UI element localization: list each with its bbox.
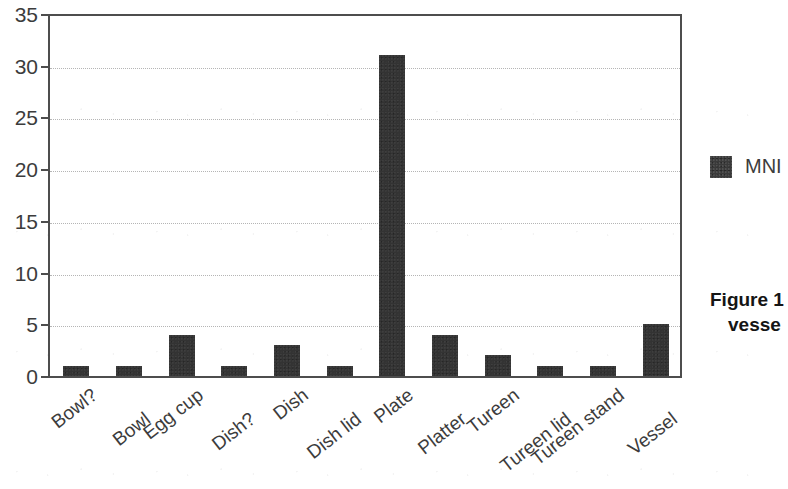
gridline bbox=[50, 275, 680, 276]
plot-frame bbox=[48, 14, 682, 378]
x-axis-category-label: Egg cup bbox=[139, 384, 207, 444]
y-axis-tick-label: 0 bbox=[0, 366, 38, 387]
bar bbox=[432, 335, 458, 376]
bar bbox=[169, 335, 195, 376]
gridline bbox=[50, 68, 680, 69]
y-axis-tick-label: 15 bbox=[0, 211, 38, 232]
bar bbox=[274, 345, 300, 376]
bar bbox=[590, 366, 616, 376]
legend-label-mni: MNI bbox=[745, 155, 782, 178]
x-axis-category-label: Platter bbox=[414, 408, 471, 459]
y-axis-tick-label: 25 bbox=[0, 107, 38, 128]
y-axis-tick-mark bbox=[41, 221, 48, 223]
x-axis-category-label: Plate bbox=[370, 384, 418, 428]
gridline bbox=[50, 119, 680, 120]
y-axis-tick-label: 35 bbox=[0, 4, 38, 25]
y-axis-tick-label: 20 bbox=[0, 159, 38, 180]
bar bbox=[643, 324, 669, 376]
figure-caption-line-2: vesse bbox=[710, 312, 788, 337]
figure-caption: Figure 1 vesse bbox=[710, 287, 788, 338]
bar bbox=[379, 55, 405, 376]
x-axis-category-label: Vessel bbox=[624, 408, 682, 460]
y-axis-tick-mark bbox=[41, 14, 48, 16]
y-axis-tick-label: 5 bbox=[0, 314, 38, 335]
bar bbox=[327, 366, 353, 376]
y-axis-tick-mark bbox=[41, 169, 48, 171]
y-axis-tick-mark bbox=[41, 66, 48, 68]
bar bbox=[221, 366, 247, 376]
y-axis-tick-label: 10 bbox=[0, 263, 38, 284]
bar bbox=[116, 366, 142, 376]
x-axis-category-label: Dish? bbox=[208, 408, 260, 455]
gridline bbox=[50, 223, 680, 224]
x-axis-category-label: Dish lid bbox=[303, 408, 366, 464]
y-axis-tick-mark bbox=[41, 324, 48, 326]
x-axis-category-label: Dish bbox=[269, 384, 313, 425]
bar bbox=[537, 366, 563, 376]
figure-caption-line-1: Figure 1 bbox=[710, 287, 788, 312]
y-axis-tick-mark bbox=[41, 117, 48, 119]
x-axis-category-label: Bowl? bbox=[48, 384, 102, 433]
plot-area bbox=[50, 16, 680, 376]
legend-swatch-mni bbox=[710, 156, 732, 178]
y-axis-tick-label: 30 bbox=[0, 56, 38, 77]
y-axis-tick-mark bbox=[41, 273, 48, 275]
gridline bbox=[50, 326, 680, 327]
chart-legend: MNI bbox=[710, 155, 782, 178]
bar bbox=[63, 366, 89, 376]
gridline bbox=[50, 171, 680, 172]
bar bbox=[485, 355, 511, 376]
y-axis-tick-mark bbox=[41, 376, 48, 378]
x-axis-category-label: Tureen bbox=[463, 384, 523, 438]
x-axis-category-labels: Bowl?BowlEgg cupDish?DishDish lidPlatePl… bbox=[48, 382, 682, 489]
